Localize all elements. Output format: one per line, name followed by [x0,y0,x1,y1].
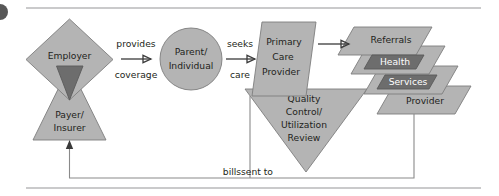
node-payer-insurer-label-1: Payer/ [55,109,85,120]
node-parent-individual-label-1: Parent/ [175,46,208,57]
edge-seeks-care: seeks care [226,38,255,80]
page-corner-mark [0,4,8,20]
edge-provides-coverage: provides coverage [115,38,158,80]
node-quality-control-label-2: Control/ [286,106,323,117]
node-services-label: Services [389,76,428,87]
node-primary-care-provider-label-2: Care [272,51,294,62]
flow-diagram: Payer/ Insurer Employer Parent/ Individu… [0,0,499,196]
node-referrals-label: Referrals [371,34,412,45]
edge-provides-coverage-label-2: coverage [115,69,158,80]
edge-seeks-care-label-1: seeks [227,38,253,49]
edge-seeks-care-label-2: care [230,69,250,80]
node-provider-label: Provider [406,95,444,106]
edge-bills-sent-to-label-2: sent to [241,166,273,177]
edge-bills-sent-to-arrowhead [66,140,73,149]
node-employer-label: Employer [48,50,92,61]
node-payer-insurer-label-2: Insurer [53,122,85,133]
edge-pcp-to-referrals [318,40,349,47]
figure-container: Payer/ Insurer Employer Parent/ Individu… [0,0,499,196]
node-primary-care-provider-label-3: Provider [262,66,300,77]
node-quality-control-label-3: Utilization [281,119,327,130]
node-health-label: Health [380,56,410,67]
edge-provides-coverage-label-1: provides [116,38,156,49]
node-primary-care-provider-label-1: Primary [266,36,302,47]
node-quality-control-label-4: Review [288,132,321,143]
edge-bills-sent-to: bills sent to [66,96,414,178]
node-parent-individual-label-2: Individual [169,60,214,71]
edge-bills-sent-to-label-1: bills [223,166,241,177]
